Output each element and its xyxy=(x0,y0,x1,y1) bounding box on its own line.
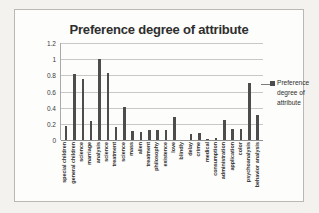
x-label-slot: existence xyxy=(162,141,170,207)
bar-slot xyxy=(237,43,245,140)
x-axis-tick-label: philosophy xyxy=(155,142,160,171)
x-label-slot: mass xyxy=(128,141,136,207)
chart-title: Preference degree of attribute xyxy=(15,22,303,37)
x-label-slot: consumption xyxy=(212,141,220,207)
chart-legend: Preference degree of attribute xyxy=(264,78,316,108)
bar xyxy=(240,129,243,140)
bar-slot xyxy=(162,43,170,140)
x-axis-tick-label: color xyxy=(238,142,243,155)
bar xyxy=(82,79,85,140)
bar-slot xyxy=(254,43,262,140)
x-axis-tick-label: crime xyxy=(196,142,201,156)
bar-slot xyxy=(95,43,103,140)
bar-slot xyxy=(245,43,253,140)
bar-slot xyxy=(112,43,120,140)
x-label-slot: psychoanalysis xyxy=(245,141,253,207)
legend-label-line-3: attribute xyxy=(277,98,316,108)
bar-slot xyxy=(70,43,78,140)
bar xyxy=(156,130,159,141)
x-axis-tick-label: blindly xyxy=(180,142,185,159)
bar-slot xyxy=(79,43,87,140)
bar xyxy=(107,73,110,140)
y-axis-tick-label: 0.2 xyxy=(47,120,56,127)
x-label-slot: medical xyxy=(203,141,211,207)
y-axis-tick-label: 0.6 xyxy=(47,88,56,95)
y-axis-tick-label: 0.4 xyxy=(47,104,56,111)
bar xyxy=(190,134,193,140)
bar-slot xyxy=(220,43,228,140)
x-axis-tick-label: science xyxy=(79,142,84,162)
bar-slot xyxy=(137,43,145,140)
bar xyxy=(165,130,168,140)
x-axis-labels: special childrengeneral childrensciencem… xyxy=(60,141,263,207)
y-axis-tick-label: 0 xyxy=(52,137,56,144)
x-label-slot: love xyxy=(170,141,178,207)
bar xyxy=(140,132,143,140)
plot-canvas xyxy=(60,43,263,140)
bar-slot xyxy=(145,43,153,140)
x-axis-tick-label: general children xyxy=(71,142,76,184)
bar xyxy=(148,130,151,141)
y-axis-tick-label: 1.2 xyxy=(47,40,56,47)
x-label-slot: color xyxy=(237,141,245,207)
bar-series xyxy=(61,43,263,140)
bar xyxy=(206,139,209,140)
bar-slot xyxy=(62,43,70,140)
x-label-slot: treatment xyxy=(111,141,119,207)
bar-slot xyxy=(104,43,112,140)
bar xyxy=(173,117,176,140)
x-label-slot: alien xyxy=(136,141,144,207)
x-label-slot: science xyxy=(103,141,111,207)
x-label-slot: delay xyxy=(187,141,195,207)
bar-slot xyxy=(170,43,178,140)
x-axis-tick-label: mass xyxy=(129,142,134,156)
x-label-slot: application xyxy=(229,141,237,207)
bar xyxy=(231,129,234,140)
x-axis-tick-label: delay xyxy=(188,142,193,156)
bar xyxy=(131,131,134,140)
bar-slot xyxy=(179,43,187,140)
x-axis-tick-label: consumption xyxy=(213,142,218,176)
x-axis-tick-label: administration xyxy=(222,142,227,179)
bar xyxy=(256,115,259,140)
bar-slot xyxy=(187,43,195,140)
bar xyxy=(90,121,93,140)
x-axis-tick-label: marriage xyxy=(88,142,93,165)
x-label-slot: philosophy xyxy=(153,141,161,207)
x-axis-tick-label: medical xyxy=(205,142,210,162)
bar xyxy=(98,59,101,140)
x-axis-tick-label: existence xyxy=(163,142,168,167)
bar xyxy=(248,83,251,140)
x-label-slot: analysis xyxy=(95,141,103,207)
bar-slot xyxy=(212,43,220,140)
x-axis-tick-label: love xyxy=(171,142,176,153)
x-axis-tick-label: alien xyxy=(138,142,143,154)
bar xyxy=(198,133,201,140)
bar-slot xyxy=(120,43,128,140)
x-label-slot: marriage xyxy=(86,141,94,207)
x-axis-tick-label: application xyxy=(230,142,235,170)
x-axis-tick-label: psychoanalysis xyxy=(247,142,252,182)
legend-label-line-1: Preference xyxy=(277,78,316,88)
chart-container: Preference degree of attribute 00.20.40.… xyxy=(14,9,304,202)
x-label-slot: crime xyxy=(195,141,203,207)
plot-area: 00.20.40.60.811.2 xyxy=(39,43,263,140)
bar xyxy=(73,74,76,140)
y-axis-tick-label: 0.8 xyxy=(47,72,56,79)
bar xyxy=(65,126,68,140)
x-axis-tick-label: treatment xyxy=(113,142,118,167)
x-label-slot: administration xyxy=(220,141,228,207)
bar-slot xyxy=(195,43,203,140)
bar-slot xyxy=(154,43,162,140)
x-axis-tick-label: analysis xyxy=(96,142,101,163)
bar xyxy=(115,127,118,140)
bar-slot xyxy=(129,43,137,140)
x-label-slot: special children xyxy=(61,141,69,207)
x-label-slot: blindly xyxy=(178,141,186,207)
bar-slot xyxy=(87,43,95,140)
x-axis-tick-label: science xyxy=(104,142,109,162)
legend-color-swatch xyxy=(270,81,275,86)
x-label-slot: science xyxy=(78,141,86,207)
y-axis-tick-label: 1 xyxy=(52,56,56,63)
x-axis-tick-label: behavior analysis xyxy=(255,142,260,187)
